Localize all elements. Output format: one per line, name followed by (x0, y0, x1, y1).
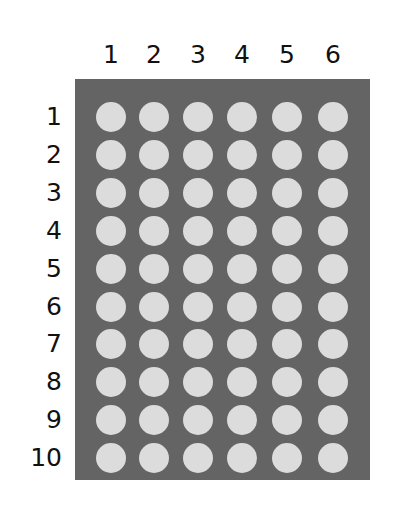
grid-dot (139, 102, 169, 132)
grid-dot (227, 292, 257, 322)
grid-dot (227, 329, 257, 359)
grid-dot (96, 178, 126, 208)
grid-dot (183, 216, 213, 246)
grid-dot (139, 405, 169, 435)
grid-dot (272, 292, 302, 322)
grid-dot (183, 405, 213, 435)
grid-dot (227, 216, 257, 246)
grid-dot (96, 102, 126, 132)
grid-dot (318, 216, 348, 246)
grid-dot (227, 254, 257, 284)
grid-dot (318, 329, 348, 359)
grid-dot (227, 405, 257, 435)
grid-dot (318, 443, 348, 473)
grid-dot (318, 140, 348, 170)
grid-dot (183, 102, 213, 132)
grid-dot (183, 292, 213, 322)
grid-dot (318, 405, 348, 435)
grid-dot (318, 254, 348, 284)
grid-dot (227, 367, 257, 397)
grid-dot (272, 405, 302, 435)
grid-dot (139, 216, 169, 246)
grid-dot (139, 254, 169, 284)
grid-dot (272, 140, 302, 170)
grid-dot (96, 367, 126, 397)
row-label: 7 (10, 329, 62, 359)
grid-dot (272, 178, 302, 208)
grid-dot (183, 367, 213, 397)
grid-dot (96, 292, 126, 322)
row-label: 8 (10, 367, 62, 397)
grid-dot (139, 367, 169, 397)
grid-dot (318, 292, 348, 322)
grid-dot (318, 102, 348, 132)
grid-dot (318, 367, 348, 397)
grid-dot (139, 443, 169, 473)
column-label: 1 (96, 40, 126, 70)
column-label: 4 (227, 40, 257, 70)
grid-dot (183, 254, 213, 284)
grid-dot (227, 140, 257, 170)
grid-dot (96, 405, 126, 435)
row-label: 6 (10, 292, 62, 322)
row-label: 1 (10, 102, 62, 132)
column-label: 3 (183, 40, 213, 70)
grid-dot (272, 216, 302, 246)
grid-dot (318, 178, 348, 208)
grid-panel (75, 79, 370, 480)
grid-dot (183, 140, 213, 170)
row-label: 10 (10, 443, 62, 473)
grid-dot (183, 443, 213, 473)
grid-dot (272, 329, 302, 359)
grid-dot (139, 178, 169, 208)
grid-dot (139, 140, 169, 170)
grid-dot (96, 443, 126, 473)
row-label: 4 (10, 216, 62, 246)
grid-dot (272, 443, 302, 473)
grid-dot (227, 178, 257, 208)
grid-dot (96, 254, 126, 284)
grid-dot (96, 329, 126, 359)
row-label: 2 (10, 140, 62, 170)
column-label: 5 (272, 40, 302, 70)
row-label: 9 (10, 405, 62, 435)
grid-dot (96, 140, 126, 170)
grid-dot (139, 329, 169, 359)
row-label: 5 (10, 254, 62, 284)
grid-dot (272, 102, 302, 132)
grid-dot (272, 254, 302, 284)
grid-dot (183, 178, 213, 208)
grid-dot (272, 367, 302, 397)
column-label: 6 (318, 40, 348, 70)
grid-dot (227, 102, 257, 132)
grid-dot (227, 443, 257, 473)
column-label: 2 (139, 40, 169, 70)
row-label: 3 (10, 178, 62, 208)
grid-dot (183, 329, 213, 359)
grid-dot (139, 292, 169, 322)
grid-dot (96, 216, 126, 246)
